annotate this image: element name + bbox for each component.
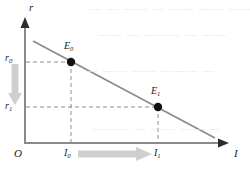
investment-increase-arrow (78, 147, 152, 161)
guide-lines-E0 (26, 62, 71, 143)
y-tick-r0-subscript: 0 (9, 57, 12, 64)
investment-demand-diagram: — — —— — —— —— —— —— — ——— — —— — —— —— … (0, 0, 250, 170)
y-axis (21, 17, 30, 144)
y-tick-label-r0: r0 (5, 53, 12, 64)
point-E1-subscript: 1 (157, 90, 160, 97)
investment-demand-curve (33, 41, 215, 138)
guide-lines-E1 (26, 107, 158, 143)
x-axis (25, 139, 229, 148)
point-marker-E0 (67, 58, 75, 66)
origin-label: O (14, 148, 22, 159)
x-tick-I1-subscript: 1 (157, 152, 160, 159)
x-tick-label-I0: I0 (64, 148, 71, 159)
point-label-E1: E1 (151, 86, 160, 97)
interest-rate-decrease-arrow (8, 64, 22, 105)
point-label-E0: E0 (64, 41, 73, 52)
point-E0-subscript: 0 (70, 45, 73, 52)
y-tick-r1-subscript: 1 (9, 105, 12, 112)
x-tick-label-I1: I1 (154, 148, 161, 159)
y-tick-label-r1: r1 (5, 101, 12, 112)
point-marker-E1 (154, 103, 162, 111)
diagram-canvas (0, 0, 250, 170)
y-axis-label: r (29, 2, 33, 13)
x-tick-I0-subscript: 0 (67, 152, 70, 159)
x-axis-label: I (234, 148, 238, 159)
